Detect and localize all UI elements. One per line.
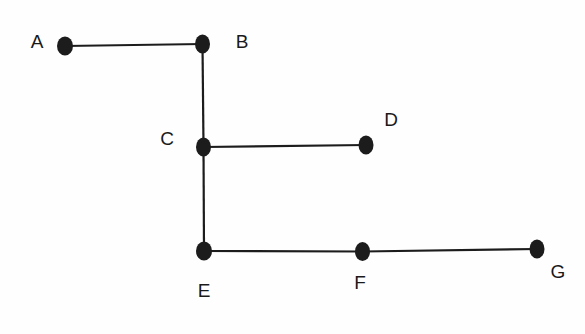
- edge-c-d: [204, 145, 367, 147]
- node-g: [530, 240, 545, 259]
- edge-b-c: [203, 44, 204, 147]
- node-a: [57, 37, 73, 56]
- node-label-c: C: [160, 128, 174, 149]
- node-label-a: A: [31, 31, 44, 52]
- node-d: [359, 136, 374, 155]
- node-label-b: B: [236, 31, 249, 52]
- node-layer: [57, 35, 545, 262]
- node-b: [195, 35, 210, 54]
- node-label-g: G: [551, 261, 566, 282]
- node-label-e: E: [198, 280, 211, 301]
- edge-a-b: [65, 44, 203, 46]
- edge-e-f: [204, 251, 363, 252]
- graph-canvas: A B C D E F G: [0, 0, 585, 334]
- graph-diagram: A B C D E F G: [0, 0, 585, 334]
- node-e: [196, 242, 212, 261]
- edge-c-e: [204, 147, 205, 251]
- node-label-f: F: [354, 272, 366, 293]
- edge-layer: [65, 44, 537, 252]
- edge-f-g: [363, 249, 538, 252]
- label-layer: A B C D E F G: [31, 31, 566, 301]
- node-label-d: D: [384, 109, 398, 130]
- node-f: [355, 242, 370, 261]
- node-c: [196, 138, 211, 157]
